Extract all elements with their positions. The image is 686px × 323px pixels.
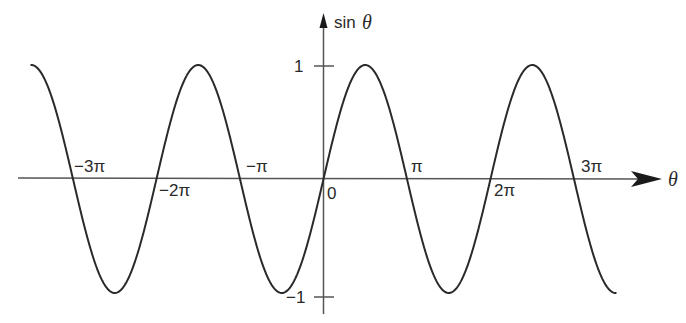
y-tick-label-neg-1: −1: [286, 288, 305, 307]
x-tick-label-neg-pi: −π: [246, 157, 268, 176]
y-tick-label-1: 1: [294, 57, 303, 76]
x-tick-label-neg-3pi: −3π: [74, 157, 105, 176]
x-tick-label-0: 0: [327, 184, 336, 203]
y-axis-label-prefix: sin: [334, 13, 356, 32]
x-axis: [18, 178, 645, 179]
sine-graph: sin θ θ 1 −1 0 −3π −2π −π π 2π 3π: [0, 0, 686, 323]
y-axis-label-theta: θ: [362, 11, 372, 33]
x-tick-label-2pi: 2π: [494, 181, 515, 200]
x-tick-label-neg-2pi: −2π: [159, 181, 190, 200]
x-tick-label-3pi: 3π: [581, 157, 602, 176]
x-tick-label-pi: π: [411, 157, 423, 176]
x-axis-label: θ: [668, 168, 678, 190]
y-axis-arrow-icon: [320, 13, 328, 28]
